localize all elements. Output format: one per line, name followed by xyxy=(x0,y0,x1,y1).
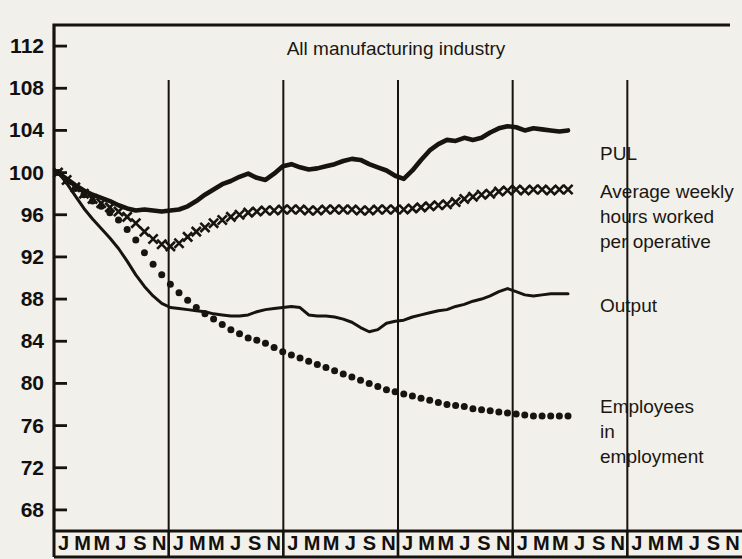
series-dot-employees xyxy=(530,413,537,420)
y-tick-label: 80 xyxy=(21,371,44,394)
series-dot-employees xyxy=(141,249,148,256)
series-dot-employees xyxy=(392,388,399,395)
legend-label-4: Output xyxy=(600,295,658,316)
series-dot-employees xyxy=(409,393,416,400)
series-dot-employees xyxy=(279,348,286,355)
series-dot-employees xyxy=(305,358,312,365)
series-dot-employees xyxy=(461,403,468,410)
series-dot-employees xyxy=(322,364,329,371)
series-dot-employees xyxy=(158,271,165,278)
x-tick-label: N xyxy=(611,532,625,554)
series-dot-employees xyxy=(184,297,191,304)
series-dot-employees xyxy=(219,321,226,328)
series-dot-employees xyxy=(504,409,511,416)
y-tick-label: 104 xyxy=(9,118,44,141)
series-dot-employees xyxy=(314,361,321,368)
series-dot-employees xyxy=(253,337,260,344)
x-tick-label: M xyxy=(189,532,206,554)
series-dot-employees xyxy=(469,405,476,412)
series-dot-employees xyxy=(443,401,450,408)
x-tick-label: S xyxy=(363,532,376,554)
series-dot-employees xyxy=(539,413,546,420)
x-tick-label: S xyxy=(592,532,605,554)
series-dot-employees xyxy=(547,413,554,420)
x-tick-label: M xyxy=(648,532,665,554)
x-tick-label: S xyxy=(133,532,146,554)
series-dot-employees xyxy=(495,408,502,415)
series-dot-employees xyxy=(478,406,485,413)
series-dot-employees xyxy=(72,185,79,192)
series-dot-employees xyxy=(210,316,217,323)
series-dot-employees xyxy=(63,178,70,185)
legend-label-5: Employees xyxy=(600,396,694,417)
series-dot-employees xyxy=(236,330,243,337)
series-dot-employees xyxy=(124,226,131,233)
x-tick-label: S xyxy=(707,532,720,554)
x-tick-label: J xyxy=(115,532,126,554)
x-tick-label: J xyxy=(402,532,413,554)
y-tick-label: 84 xyxy=(21,329,45,352)
series-dot-employees xyxy=(348,374,355,381)
y-tick-label: 88 xyxy=(21,287,45,310)
series-dot-employees xyxy=(556,413,563,420)
x-tick-label: J xyxy=(574,532,585,554)
x-tick-label: J xyxy=(459,532,470,554)
x-tick-label: N xyxy=(725,532,739,554)
y-tick-label: 92 xyxy=(21,245,44,268)
series-dot-employees xyxy=(150,261,157,268)
series-dot-employees xyxy=(487,407,494,414)
x-tick-label: J xyxy=(58,532,69,554)
x-tick-label: N xyxy=(267,532,281,554)
legend-label-7: employment xyxy=(600,446,704,467)
legend-label-6: in xyxy=(600,421,615,442)
x-tick-label: M xyxy=(323,532,340,554)
chart-background xyxy=(0,0,742,559)
series-dot-employees xyxy=(245,335,252,342)
x-tick-label: M xyxy=(93,532,110,554)
series-dot-employees xyxy=(115,217,122,224)
series-dot-employees xyxy=(262,340,269,347)
y-tick-label: 108 xyxy=(9,76,44,99)
x-tick-label: J xyxy=(173,532,184,554)
series-dot-employees xyxy=(366,380,373,387)
y-tick-label: 72 xyxy=(21,456,44,479)
x-tick-label: J xyxy=(345,532,356,554)
x-tick-label: M xyxy=(552,532,569,554)
series-dot-employees xyxy=(80,191,87,198)
x-tick-label: M xyxy=(208,532,225,554)
x-tick-label: M xyxy=(304,532,321,554)
series-dot-employees xyxy=(288,351,295,358)
y-tick-label: 68 xyxy=(21,498,45,521)
legend-label-3: per operative xyxy=(600,231,711,252)
x-tick-label: M xyxy=(437,532,454,554)
x-tick-label: M xyxy=(418,532,435,554)
series-dot-employees xyxy=(167,281,174,288)
series-dot-employees xyxy=(435,399,442,406)
series-dot-employees xyxy=(400,390,407,397)
series-dot-employees xyxy=(271,344,278,351)
series-dot-employees xyxy=(132,237,139,244)
x-tick-label: J xyxy=(230,532,241,554)
x-tick-label: M xyxy=(74,532,91,554)
series-dot-employees xyxy=(418,395,425,402)
legend-label-2: hours worked xyxy=(600,206,714,227)
series-dot-employees xyxy=(513,410,520,417)
page-title: All manufacturing industry xyxy=(287,38,506,59)
y-tick-label: 112 xyxy=(10,34,44,57)
x-tick-label: J xyxy=(631,532,642,554)
series-dot-employees xyxy=(426,397,433,404)
y-tick-label: 100 xyxy=(9,161,44,184)
x-tick-label: M xyxy=(533,532,550,554)
y-tick-label: 96 xyxy=(21,203,44,226)
x-tick-label: J xyxy=(689,532,700,554)
series-dot-employees xyxy=(383,386,390,393)
x-tick-label: J xyxy=(287,532,298,554)
x-tick-label: J xyxy=(517,532,528,554)
x-tick-label: S xyxy=(248,532,261,554)
series-dot-employees xyxy=(106,209,113,216)
chart-page: 6872768084889296100104108112 JMMJSNJMMJS… xyxy=(0,0,742,559)
series-dot-employees xyxy=(89,198,96,205)
x-tick-label: N xyxy=(496,532,510,554)
series-dot-employees xyxy=(565,413,572,420)
legend-label-1: Average weekly xyxy=(600,181,734,202)
